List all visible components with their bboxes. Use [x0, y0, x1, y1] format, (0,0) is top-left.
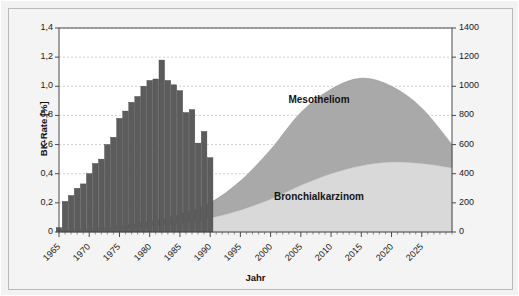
bar: [62, 201, 68, 232]
bar: [195, 143, 201, 232]
y-axis-right-tick-label: 800: [459, 110, 474, 119]
bar: [105, 145, 111, 232]
y-axis-right-tick-label: 1400: [459, 23, 479, 32]
y-axis-right-tick-label: 1200: [459, 52, 479, 61]
bar: [207, 158, 213, 232]
bar: [123, 111, 129, 232]
bar: [165, 80, 171, 232]
bar: [80, 184, 86, 232]
bar: [183, 113, 189, 232]
y-axis-left-title: BK-Rate [%]: [39, 74, 49, 184]
y-axis-right-tick-label: 400: [459, 169, 474, 178]
bar: [201, 131, 207, 232]
y-axis-left-tick-label: 1,2: [27, 52, 53, 61]
x-axis-title: Jahr: [226, 273, 286, 283]
bar: [177, 91, 183, 232]
bar: [159, 60, 165, 232]
bar: [153, 79, 159, 232]
y-axis-left-tick-label: 1,4: [27, 23, 53, 32]
bar: [141, 86, 147, 232]
y-axis-right-tick-label: 1000: [459, 81, 479, 90]
y-axis-left-tick-label: 0,2: [27, 198, 53, 207]
figure-frame: 00,20,40,60,81,01,21,4020040060080010001…: [8, 8, 513, 290]
y-axis-left-tick-label: 0: [27, 227, 53, 236]
bar: [147, 80, 153, 232]
y-axis-right-tick-label: 200: [459, 198, 474, 207]
annotation-bronchialkarzinom: Bronchialkarzinom: [274, 192, 364, 202]
bar: [129, 102, 135, 232]
bar: [86, 174, 92, 232]
bar: [74, 188, 80, 232]
bar: [99, 159, 105, 232]
bar: [135, 96, 141, 232]
bar: [68, 196, 74, 232]
bar: [189, 110, 195, 232]
figure-container: 00,20,40,60,81,01,21,4020040060080010001…: [0, 0, 519, 296]
bar: [111, 137, 117, 232]
y-axis-right-tick-label: 600: [459, 140, 474, 149]
annotation-mesotheliom: Mesotheliom: [274, 95, 364, 105]
bar: [171, 85, 177, 232]
y-axis-right-tick-label: 0: [459, 227, 464, 236]
bar: [117, 118, 123, 232]
bar: [93, 164, 99, 232]
